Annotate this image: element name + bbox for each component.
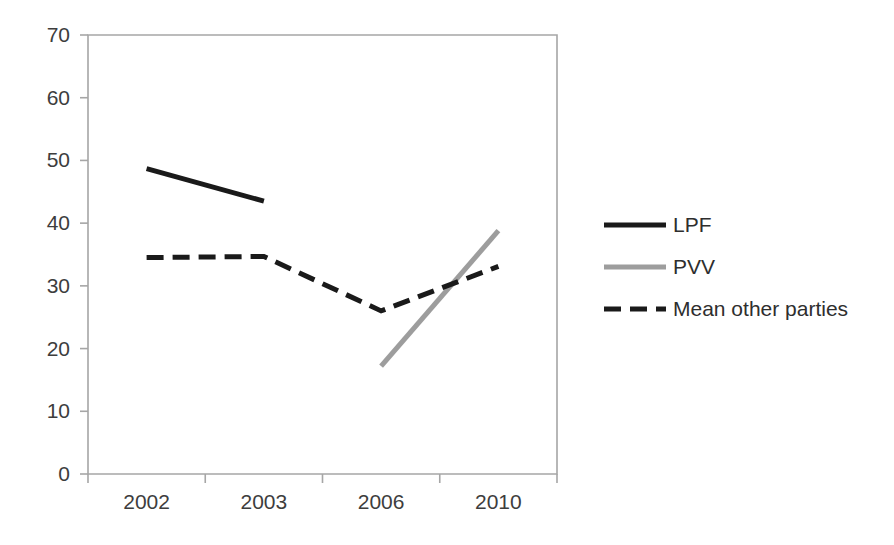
x-tick-label: 2010 xyxy=(475,490,522,513)
y-tick-label: 50 xyxy=(47,148,70,171)
y-axis-ticks xyxy=(80,35,88,474)
y-tick-label: 0 xyxy=(58,462,70,485)
x-axis-ticks xyxy=(88,474,557,483)
series-line-lpf xyxy=(147,169,264,202)
plot-frame xyxy=(88,35,557,474)
chart-legend: LPFPVVMean other parties xyxy=(604,213,848,320)
y-axis-tick-labels: 010203040506070 xyxy=(47,23,70,485)
chart-canvas: 010203040506070 2002200320062010 LPFPVVM… xyxy=(0,0,894,545)
legend-label-lpf: LPF xyxy=(673,213,712,236)
x-axis-tick-labels: 2002200320062010 xyxy=(123,490,521,513)
legend-label-mean-other-parties: Mean other parties xyxy=(673,297,848,320)
x-tick-label: 2003 xyxy=(241,490,288,513)
y-tick-label: 10 xyxy=(47,399,70,422)
series-line-mean-other-parties xyxy=(147,256,499,311)
y-tick-label: 20 xyxy=(47,337,70,360)
line-chart: 010203040506070 2002200320062010 LPFPVVM… xyxy=(0,0,894,545)
x-tick-label: 2006 xyxy=(358,490,405,513)
y-tick-label: 30 xyxy=(47,274,70,297)
x-tick-label: 2002 xyxy=(123,490,170,513)
legend-label-pvv: PVV xyxy=(673,255,715,278)
y-tick-label: 70 xyxy=(47,23,70,46)
y-tick-label: 40 xyxy=(47,211,70,234)
y-tick-label: 60 xyxy=(47,86,70,109)
data-series-group xyxy=(147,169,499,367)
series-line-pvv xyxy=(381,231,498,366)
